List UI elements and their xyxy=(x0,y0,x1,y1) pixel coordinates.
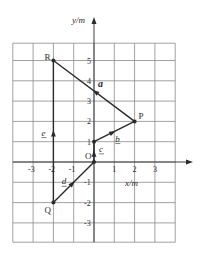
x-tick-label: -1 xyxy=(69,165,76,174)
x-tick-label: 1 xyxy=(112,165,116,174)
point-R xyxy=(51,59,55,63)
y-tick-label: -1 xyxy=(84,178,91,187)
vector-c-arrow-icon xyxy=(92,150,97,157)
vector-label-b: b xyxy=(115,134,120,144)
point-label-P: P xyxy=(139,111,144,121)
point-label-Q: Q xyxy=(44,205,51,215)
y-axis-arrow-icon xyxy=(92,17,97,24)
y-tick-label: 1 xyxy=(87,138,91,147)
point-Q xyxy=(51,201,55,205)
vector-label-c: c xyxy=(99,144,103,154)
y-tick-label: -3 xyxy=(84,219,91,228)
vector-label-e: e xyxy=(41,128,45,138)
vector-label-a: a xyxy=(98,78,103,89)
y-tick-label: 2 xyxy=(87,117,91,126)
point-P xyxy=(133,119,137,123)
y-tick-label: 5 xyxy=(87,57,91,66)
x-axis-arrow-icon xyxy=(186,160,193,165)
x-tick-label: 3 xyxy=(153,165,157,174)
x-tick-label: 2 xyxy=(133,165,137,174)
y-tick-label: 4 xyxy=(87,77,91,86)
axes xyxy=(13,17,193,242)
y-tick-label: -2 xyxy=(84,199,91,208)
point-label-R: R xyxy=(44,52,50,62)
x-tick-label: -3 xyxy=(28,165,35,174)
vector-e-arrow-icon xyxy=(51,130,56,137)
vector-label-d: d xyxy=(62,176,67,186)
y-axis-label: y/m xyxy=(71,15,85,25)
point-label-O: O xyxy=(85,151,92,161)
point-O xyxy=(92,160,96,164)
x-axis-label: x/m xyxy=(124,178,138,188)
point-0-1 xyxy=(92,140,96,144)
y-tick-label: 3 xyxy=(87,97,91,106)
vector-diagram: -3-2-112354321-1-2-3 abcde OPQR y/m x/m xyxy=(0,0,201,254)
